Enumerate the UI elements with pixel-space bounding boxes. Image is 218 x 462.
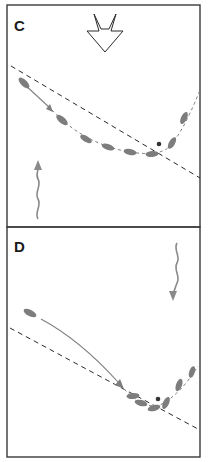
cell [174,378,184,392]
panel-c-label: C [14,17,25,34]
cell [166,136,178,150]
wavy-up-arrow-icon [34,160,42,219]
reference-line [11,66,200,178]
trajectory-path [124,366,198,406]
reference-line [10,328,198,429]
panel-d-label: D [14,238,25,255]
cell [179,111,190,125]
panel-d: D [7,227,200,457]
wavy-down-arrow-icon [169,243,178,301]
panel-c: C [7,5,200,227]
cell [147,403,161,412]
cells [126,365,196,412]
cells [17,76,190,158]
trajectory-path [52,90,200,154]
cell [145,150,158,157]
cell [126,392,139,399]
figure: C D [0,0,218,462]
open-down-arrow-icon [87,14,123,52]
marker-dot [157,142,162,147]
marker-dot [156,397,161,402]
cell [161,396,172,410]
cell [134,398,148,407]
cell [101,142,115,152]
cell [22,307,37,319]
cell [123,148,137,156]
cell [187,365,196,378]
